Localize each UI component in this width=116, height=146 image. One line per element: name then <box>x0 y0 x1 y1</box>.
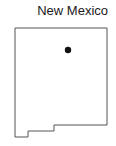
location-marker <box>65 47 71 53</box>
state-outline <box>15 28 107 137</box>
state-map <box>0 0 116 146</box>
